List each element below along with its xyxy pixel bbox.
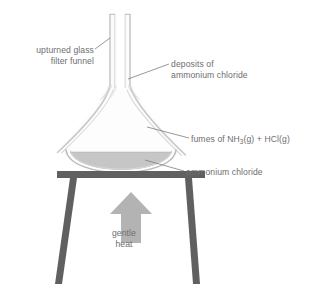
chemistry-diagram: upturned glass filter funnel deposits of… [0,0,312,298]
label-fumes-subscript: 3 [240,138,244,145]
funnel-cone [57,86,186,156]
label-ammonium-chloride: ammonium chloride [186,167,306,178]
label-deposits-line1: deposits of [171,59,301,70]
label-fumes-prefix: fumes of NH [191,134,240,144]
label-deposits-of-ammonium-chloride: deposits of ammonium chloride [171,59,301,81]
label-gentle-heat-line1: gentle [93,228,155,239]
funnel-stem [110,14,131,90]
label-upturned-glass-filter-funnel: upturned glass filter funnel [8,45,94,67]
label-fumes-of-nh3-and-hcl: fumes of NH3(g) + HCl(g) [191,134,311,145]
tripod-top-bar [57,171,205,178]
tripod-leg-left [55,178,77,284]
funnel-stem-left-bore [111,14,115,90]
label-upturned-funnel-line1: upturned glass [8,45,94,56]
label-gentle-heat: gentle heat [93,228,155,250]
label-deposits-line2: ammonium chloride [171,70,301,81]
leader-deposits [128,64,169,79]
label-upturned-funnel-line2: filter funnel [8,56,94,67]
label-gentle-heat-line2: heat [93,239,155,250]
leader-upturned-funnel [95,38,110,49]
evaporating-dish [66,150,176,173]
funnel-cone-fill [57,88,185,155]
tripod-leg-right [185,178,200,284]
label-fumes-suffix: (g) + HCl(g) [244,134,290,144]
